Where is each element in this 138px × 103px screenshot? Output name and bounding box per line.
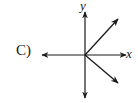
vector-upper-right — [85, 19, 118, 55]
vector-diagram — [0, 0, 138, 103]
vector-lower-right — [85, 55, 118, 83]
